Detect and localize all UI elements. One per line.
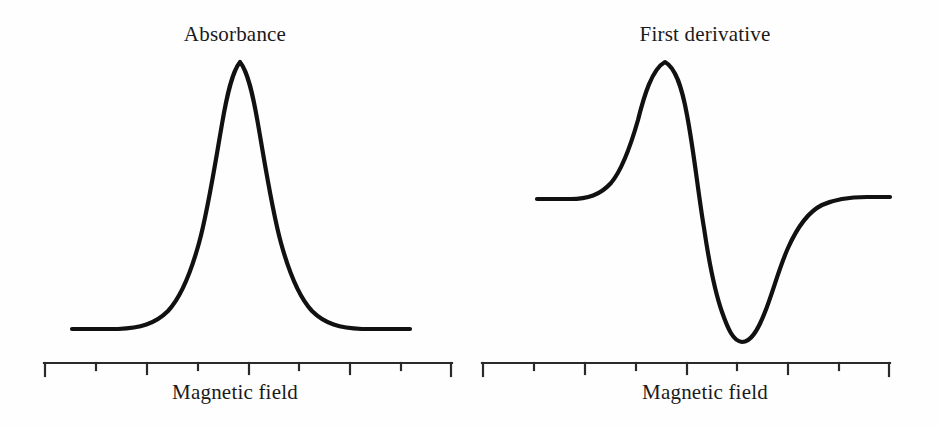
derivative-plot (470, 0, 940, 428)
panel-derivative: First derivative Magnetic field (470, 0, 940, 428)
panel-absorbance: Absorbance Magnetic field (0, 0, 470, 428)
figure-container: Absorbance Magnetic field First derivati… (0, 0, 940, 428)
absorbance-plot (0, 0, 470, 428)
absorbance-xlabel: Magnetic field (0, 380, 470, 405)
derivative-curve (537, 62, 890, 342)
derivative-xlabel: Magnetic field (470, 380, 940, 405)
absorbance-curve (72, 62, 410, 329)
